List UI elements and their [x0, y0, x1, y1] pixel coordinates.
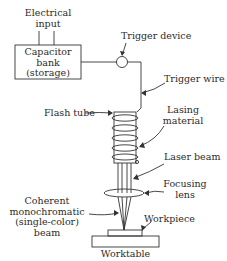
lasing-material-leader	[140, 126, 164, 146]
coherent-beam-leader	[89, 213, 118, 215]
flash-tube-coil	[112, 115, 138, 121]
trigger-wire-line	[128, 62, 142, 112]
label-electrical-input: Electrical input	[20, 8, 76, 29]
label-line: (storage)	[15, 68, 81, 79]
label-focusing-lens: Focusing lens	[160, 179, 210, 200]
flash-tube-coil	[112, 145, 138, 151]
focusing-lens	[104, 189, 144, 197]
arrowhead-icon	[114, 210, 119, 216]
flash-tube-coil	[112, 135, 138, 141]
label-line: material	[160, 116, 206, 127]
worktable-block	[92, 236, 159, 247]
lasing-rod	[114, 112, 136, 163]
arrowhead-icon	[108, 110, 113, 116]
label-line: lens	[160, 190, 210, 201]
arrowhead-icon	[120, 51, 125, 56]
label-worktable: Worktable	[92, 249, 159, 260]
arrowhead-icon	[133, 174, 139, 180]
laser-beam-leader	[134, 164, 164, 178]
arrowhead-icon	[139, 142, 145, 148]
label-trigger-wire: Trigger wire	[164, 74, 225, 85]
label-line: beam	[4, 228, 90, 239]
label-line: Focusing	[160, 179, 210, 190]
label-capacitor-bank: Capacitor bank (storage)	[15, 47, 81, 79]
label-laser-beam: Laser beam	[164, 152, 220, 163]
label-trigger-device: Trigger device	[121, 31, 191, 42]
label-flash-tube: Flash tube	[44, 108, 95, 119]
label-coherent-beam: Coherent monochromatic (single-color) be…	[4, 196, 90, 238]
arrowhead-icon	[144, 190, 149, 196]
label-line: Coherent	[4, 196, 90, 207]
label-workpiece: Workpiece	[144, 214, 195, 225]
label-line: Lasing	[160, 105, 206, 116]
label-line: (single-color)	[4, 217, 90, 228]
flash-tube-coil	[112, 154, 138, 160]
trigger-device-circle	[117, 57, 128, 68]
label-line: Capacitor	[15, 47, 81, 58]
workpiece-block	[108, 230, 142, 236]
arrowhead-icon	[141, 90, 146, 96]
label-line: input	[20, 19, 76, 30]
label-lasing-material: Lasing material	[160, 105, 206, 126]
label-line: Electrical	[20, 8, 76, 19]
flash-tube-coil	[112, 125, 138, 131]
